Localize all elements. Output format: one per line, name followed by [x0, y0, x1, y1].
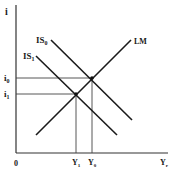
- equilibrium-point-1: [74, 92, 78, 96]
- lm-curve: [36, 40, 131, 135]
- equilibrium-point-0: [90, 76, 94, 80]
- is-lm-diagram: i 0 i0 i1 Y1 Y0 Yr IS0 IS1 LM: [0, 0, 172, 170]
- is1-label: IS1: [23, 51, 35, 62]
- lm-label: LM: [134, 37, 147, 46]
- y-axis-label: i: [5, 6, 8, 17]
- yr-axis-label: Yr: [160, 158, 169, 168]
- i1-label: i1: [4, 89, 10, 100]
- y0-label: Y0: [88, 158, 97, 168]
- y1-label: Y1: [72, 158, 81, 168]
- i0-label: i0: [4, 73, 10, 84]
- is0-label: IS0: [36, 35, 48, 46]
- origin-label: 0: [14, 159, 18, 168]
